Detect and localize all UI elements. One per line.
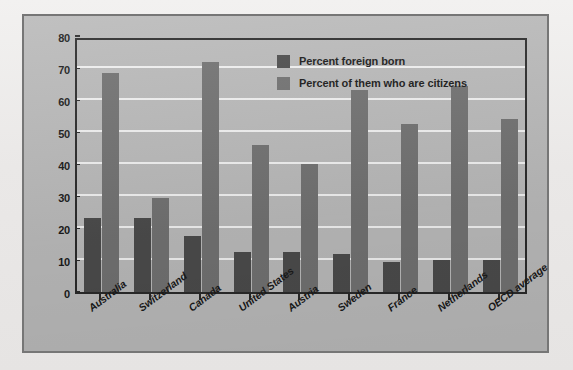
y-axis-tick-label: 80: [58, 32, 70, 44]
bar: [234, 252, 251, 292]
y-axis: 01020304050607080: [34, 38, 70, 294]
legend-item: Percent foreign born: [277, 50, 467, 72]
bar: [202, 62, 219, 292]
legend-label: Percent foreign born: [299, 55, 405, 67]
bar: [252, 145, 269, 292]
bar: [333, 254, 350, 292]
bar-group: [184, 40, 219, 292]
legend-swatch-light-icon: [277, 77, 290, 90]
bar-group: [234, 40, 269, 292]
y-axis-tick-label: 60: [58, 96, 70, 108]
bar: [401, 124, 418, 292]
bar: [152, 198, 169, 292]
bar: [102, 73, 119, 292]
bar: [134, 218, 151, 292]
legend-label: Percent of them who are citizens: [299, 77, 467, 89]
bar: [184, 236, 201, 292]
bar: [301, 164, 318, 292]
bar: [84, 218, 101, 292]
y-axis-tick-label: 10: [58, 256, 70, 268]
bar: [383, 262, 400, 292]
bar-group: [84, 40, 119, 292]
bar-group: [134, 40, 169, 292]
y-axis-tick-label: 0: [64, 288, 70, 300]
y-axis-tick-label: 30: [58, 192, 70, 204]
y-axis-tick-label: 20: [58, 224, 70, 236]
chart-figure: 01020304050607080 AustraliaSwitzerlandCa…: [22, 14, 549, 353]
y-axis-tick-label: 40: [58, 160, 70, 172]
bar: [433, 260, 450, 292]
chart-legend: Percent foreign born Percent of them who…: [277, 50, 467, 94]
bar: [351, 90, 368, 292]
legend-item: Percent of them who are citizens: [277, 72, 467, 94]
bar-group: [483, 40, 518, 292]
legend-swatch-dark-icon: [277, 55, 290, 68]
y-axis-tick-label: 70: [58, 64, 70, 76]
bar: [451, 86, 468, 292]
y-axis-tick-mark: [75, 35, 80, 37]
bar: [501, 119, 518, 292]
y-axis-tick-label: 50: [58, 128, 70, 140]
